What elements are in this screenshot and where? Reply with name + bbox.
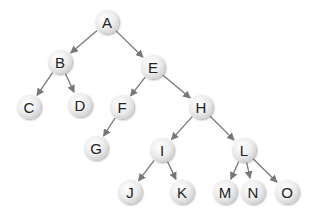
- tree-diagram: ABECDFHGILJKMNO: [0, 0, 316, 215]
- node-label: N: [248, 184, 259, 201]
- node-g: G: [84, 136, 108, 160]
- node-label: C: [24, 99, 35, 116]
- node-label: D: [75, 97, 86, 114]
- node-m: M: [213, 180, 237, 204]
- edge-b-c: [37, 73, 53, 96]
- node-label: O: [281, 184, 293, 201]
- edge-l-o: [253, 159, 277, 182]
- node-i: I: [150, 138, 174, 162]
- node-o: O: [275, 180, 299, 204]
- node-label: K: [177, 184, 187, 201]
- node-h: H: [189, 95, 213, 119]
- node-a: A: [95, 10, 119, 34]
- edge-h-i: [171, 117, 192, 140]
- tree-canvas: ABECDFHGILJKMNO: [0, 0, 316, 215]
- node-label: F: [117, 99, 126, 116]
- node-label: B: [55, 54, 65, 71]
- edge-e-h: [163, 75, 190, 98]
- node-l: L: [232, 138, 256, 162]
- edge-a-b: [71, 30, 97, 53]
- node-label: E: [148, 59, 158, 76]
- node-label: A: [102, 14, 112, 31]
- node-label: L: [240, 142, 248, 159]
- edge-b-d: [65, 74, 74, 93]
- node-label: G: [90, 140, 102, 157]
- edge-h-l: [210, 116, 234, 140]
- edge-a-e: [116, 31, 143, 57]
- node-d: D: [68, 93, 92, 117]
- edge-i-k: [168, 162, 176, 180]
- node-label: J: [126, 184, 134, 201]
- node-b: B: [48, 50, 72, 74]
- edge-f-g: [103, 118, 115, 136]
- node-c: C: [17, 95, 41, 119]
- nodes-group: ABECDFHGILJKMNO: [17, 10, 299, 204]
- node-j: J: [118, 180, 142, 204]
- node-label: M: [219, 184, 232, 201]
- node-e: E: [141, 55, 165, 79]
- node-label: H: [196, 99, 207, 116]
- edge-e-f: [131, 77, 145, 96]
- node-label: I: [160, 142, 164, 159]
- node-f: F: [110, 95, 134, 119]
- edge-l-n: [247, 163, 250, 179]
- edge-l-m: [231, 162, 239, 179]
- node-k: K: [170, 180, 194, 204]
- node-n: N: [241, 180, 265, 204]
- edge-i-j: [138, 160, 154, 181]
